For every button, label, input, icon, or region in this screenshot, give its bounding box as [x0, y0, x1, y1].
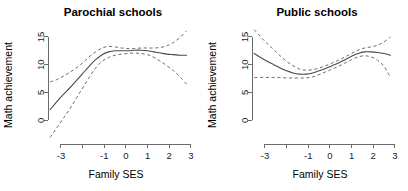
panel-parochial-svg: Parochial schools Family SES Math achiev…	[0, 0, 204, 191]
y-ticks: 051015	[35, 32, 48, 123]
y-tick-label: 15	[35, 32, 46, 43]
y-ticks: 051015	[239, 32, 252, 123]
y-tick-label: 15	[239, 32, 250, 43]
plot-curves	[50, 31, 186, 138]
y-tick-label: 5	[239, 90, 250, 95]
x-axis-title: Family SES	[89, 168, 144, 180]
y-axis-title: Math achievement	[2, 42, 14, 128]
x-tick-label: -1	[304, 150, 312, 161]
y-axis: 051015	[35, 32, 48, 123]
x-tick-label: -3	[57, 150, 65, 161]
y-axis: 051015	[239, 32, 252, 123]
y-axis-title: Math achievement	[206, 42, 218, 128]
x-tick-label: 0	[123, 150, 128, 161]
x-tick-label: 0	[327, 150, 332, 161]
panel-public-svg: Public schools Family SES Math achieveme…	[204, 0, 408, 191]
y-tick-label: 5	[35, 90, 46, 95]
x-tick-label: -3	[261, 150, 269, 161]
y-tick-label: 0	[35, 118, 46, 123]
series-fit	[254, 52, 390, 75]
y-tick-label: 10	[239, 59, 250, 70]
x-ticks: -3-10123	[261, 144, 398, 161]
x-tick-label: 1	[349, 150, 354, 161]
panel-title: Public schools	[276, 6, 357, 18]
figure-container: Parochial schools Family SES Math achiev…	[0, 0, 408, 191]
panel-title: Parochial schools	[64, 6, 162, 18]
x-tick-label: -1	[100, 150, 108, 161]
x-tick-label: 3	[188, 150, 193, 161]
series-lower-ci	[50, 53, 186, 137]
x-axis: -3-10123	[57, 144, 194, 161]
panel-public-schools: Public schools Family SES Math achieveme…	[204, 0, 408, 191]
plot-curves	[254, 30, 390, 78]
y-tick-label: 10	[35, 59, 46, 70]
x-tick-label: 2	[167, 150, 172, 161]
y-tick-label: 0	[239, 118, 250, 123]
x-axis-title: Family SES	[293, 168, 348, 180]
x-axis: -3-10123	[261, 144, 398, 161]
x-tick-label: 2	[371, 150, 376, 161]
series-fit	[50, 50, 186, 110]
x-tick-label: 3	[392, 150, 397, 161]
x-tick-label: 1	[145, 150, 150, 161]
series-upper-ci	[50, 31, 186, 82]
series-upper-ci	[254, 30, 390, 71]
x-ticks: -3-10123	[57, 144, 194, 161]
panel-parochial-schools: Parochial schools Family SES Math achiev…	[0, 0, 204, 191]
